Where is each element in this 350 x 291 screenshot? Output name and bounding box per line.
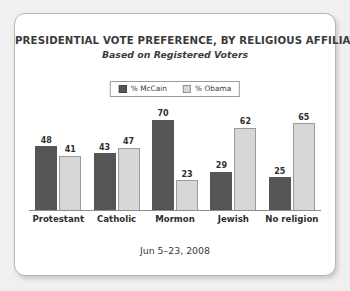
category-label-catholic: Catholic bbox=[87, 214, 145, 224]
bar-group-catholic: 43 47 bbox=[87, 110, 145, 211]
chart-title: PRESIDENTIAL VOTE PREFERENCE, BY RELIGIO… bbox=[15, 35, 335, 46]
bar-rect bbox=[118, 148, 140, 211]
bar-value: 25 bbox=[274, 168, 285, 176]
category-label-no-religion: No religion bbox=[263, 214, 321, 224]
legend-label-obama: % Obama bbox=[195, 85, 231, 92]
bar-value: 65 bbox=[298, 114, 309, 122]
bar-group-jewish: 29 62 bbox=[204, 110, 262, 211]
bar-rect bbox=[152, 120, 174, 212]
bar-protestant-obama: 41 bbox=[59, 110, 81, 211]
bar-mormon-mccain: 70 bbox=[152, 110, 174, 211]
bar-groups: 48 41 43 47 bbox=[29, 110, 321, 211]
chart-legend: % McCain % Obama bbox=[110, 81, 240, 97]
chart-card: PRESIDENTIAL VOTE PREFERENCE, BY RELIGIO… bbox=[14, 13, 336, 276]
bar-rect bbox=[234, 128, 256, 211]
bar-jewish-obama: 62 bbox=[234, 110, 256, 211]
bar-group-protestant: 48 41 bbox=[29, 110, 87, 211]
bar-value: 43 bbox=[99, 144, 110, 152]
bar-catholic-mccain: 43 bbox=[94, 110, 116, 211]
legend-label-mccain: % McCain bbox=[131, 85, 167, 92]
bar-value: 41 bbox=[65, 146, 76, 154]
bar-rect bbox=[59, 156, 81, 211]
plot-area: 48 41 43 47 bbox=[29, 110, 321, 211]
bar-mormon-obama: 23 bbox=[176, 110, 198, 211]
bar-rect bbox=[210, 172, 232, 211]
category-axis-labels: Protestant Catholic Mormon Jewish No rel… bbox=[29, 214, 321, 224]
bar-rect bbox=[35, 146, 57, 211]
bar-catholic-obama: 47 bbox=[118, 110, 140, 211]
category-label-protestant: Protestant bbox=[29, 214, 87, 224]
category-label-mormon: Mormon bbox=[146, 214, 204, 224]
category-label-jewish: Jewish bbox=[204, 214, 262, 224]
bar-value: 47 bbox=[123, 138, 134, 146]
bar-group-no-religion: 25 65 bbox=[263, 110, 321, 211]
bar-value: 29 bbox=[216, 162, 227, 170]
bar-rect bbox=[269, 177, 291, 211]
bar-group-mormon: 70 23 bbox=[146, 110, 204, 211]
bar-value: 62 bbox=[240, 118, 251, 126]
bar-no-religion-obama: 65 bbox=[293, 110, 315, 211]
bar-rect bbox=[293, 123, 315, 211]
chart-subtitle: Based on Registered Voters bbox=[15, 49, 335, 60]
bar-value: 48 bbox=[41, 137, 52, 145]
bar-no-religion-mccain: 25 bbox=[269, 110, 291, 211]
survey-date-footer: Jun 5–23, 2008 bbox=[15, 245, 335, 256]
dark-swatch-icon bbox=[119, 85, 127, 93]
legend-item-mccain: % McCain bbox=[119, 85, 167, 93]
bar-value: 70 bbox=[157, 110, 168, 118]
bar-rect bbox=[176, 180, 198, 211]
legend-item-obama: % Obama bbox=[183, 85, 231, 93]
bar-value: 23 bbox=[181, 171, 192, 179]
x-axis-line bbox=[29, 210, 321, 211]
light-swatch-icon bbox=[183, 85, 191, 93]
bar-rect bbox=[94, 153, 116, 211]
bar-jewish-mccain: 29 bbox=[210, 110, 232, 211]
bar-protestant-mccain: 48 bbox=[35, 110, 57, 211]
chart-area: PRESIDENTIAL VOTE PREFERENCE, BY RELIGIO… bbox=[15, 14, 335, 275]
